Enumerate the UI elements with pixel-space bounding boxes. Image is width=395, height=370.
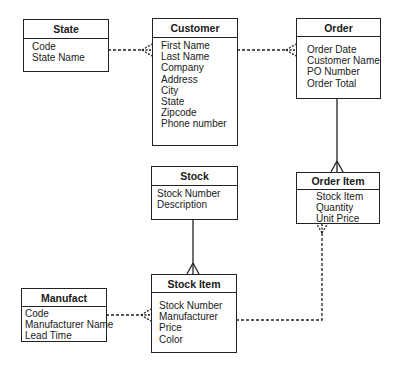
field: City — [161, 85, 237, 96]
field: Address — [161, 74, 237, 85]
field: Order Total — [307, 78, 380, 89]
field: Manufacturer — [159, 311, 236, 322]
entity-customer[interactable]: Customer First Name Last Name Company Ad… — [152, 18, 238, 146]
field: Last Name — [161, 51, 237, 62]
entity-title: Manufact — [22, 289, 106, 307]
field: Stock Item — [316, 191, 379, 202]
field: Description — [157, 199, 237, 210]
field-list: Code State Name — [24, 39, 108, 63]
field: Phone number — [161, 118, 237, 129]
field-list: Stock Number Manufacturer Price Color — [152, 293, 236, 345]
entity-stock-item[interactable]: Stock Item Stock Number Manufacturer Pri… — [151, 274, 237, 353]
field-list: First Name Last Name Company Address Cit… — [153, 38, 237, 130]
entity-title: Customer — [153, 19, 237, 38]
field: Stock Number — [157, 188, 237, 199]
field: Company — [161, 62, 237, 73]
field: Zipcode — [161, 107, 237, 118]
entity-stock[interactable]: Stock Stock Number Description — [151, 166, 238, 220]
entity-title: Order Item — [297, 173, 379, 190]
entity-title: Order — [297, 19, 380, 37]
field: Unit Price — [316, 213, 379, 224]
field: Customer Name — [307, 55, 380, 66]
entity-manufact[interactable]: Manufact Code Manufacturer Name Lead Tim… — [21, 288, 107, 342]
field-list: Code Manufacturer Name Lead Time — [22, 307, 106, 342]
entity-order-item[interactable]: Order Item Stock Item Quantity Unit Pric… — [296, 172, 380, 224]
field: First Name — [161, 40, 237, 51]
entity-state[interactable]: State Code State Name — [23, 19, 109, 72]
field-list: Stock Item Quantity Unit Price — [297, 190, 379, 225]
field: Code — [25, 308, 106, 319]
entity-order[interactable]: Order Order Date Customer Name PO Number… — [296, 18, 381, 99]
field-list: Order Date Customer Name PO Number Order… — [297, 37, 380, 89]
field: State — [161, 96, 237, 107]
field: Price — [159, 322, 236, 333]
entity-title: Stock Item — [152, 275, 236, 293]
field: Order Date — [307, 44, 380, 55]
field: Quantity — [316, 202, 379, 213]
field-list: Stock Number Description — [152, 186, 237, 210]
field: Lead Time — [25, 330, 106, 341]
entity-title: State — [24, 20, 108, 39]
field: Stock Number — [159, 300, 236, 311]
field: Color — [159, 334, 236, 345]
entity-title: Stock — [152, 167, 237, 186]
field: State Name — [32, 52, 108, 63]
field: Manufacturer Name — [25, 319, 106, 330]
field: PO Number — [307, 66, 380, 77]
field: Code — [32, 41, 108, 52]
